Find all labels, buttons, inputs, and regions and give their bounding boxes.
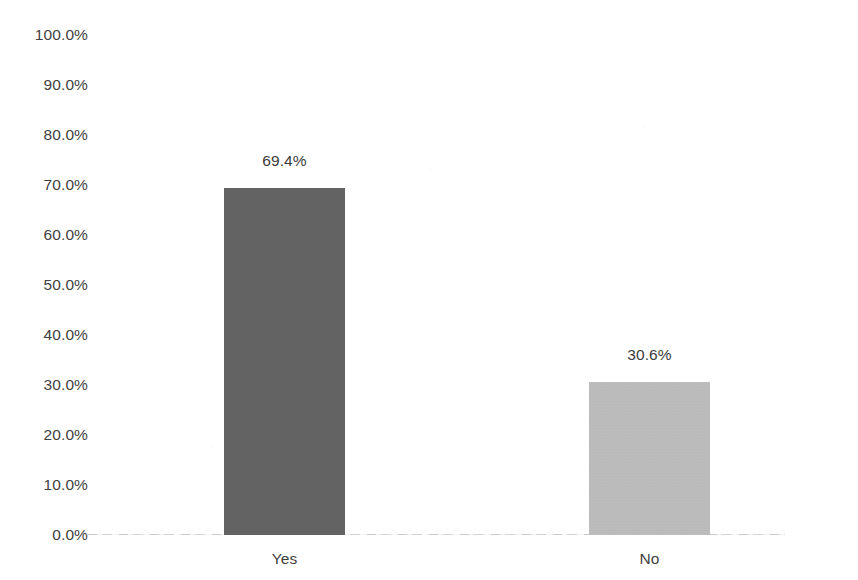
data-label-yes: 69.4% (224, 153, 345, 169)
bar-texture (589, 382, 710, 535)
y-axis-tick-label: 40.0% (0, 327, 88, 343)
plot-area: 69.4% 30.6% (88, 35, 785, 535)
y-axis-tick-label: 20.0% (0, 427, 88, 443)
bar-texture (224, 188, 345, 535)
y-axis-tick-label: 30.0% (0, 377, 88, 393)
y-axis-tick-label: 70.0% (0, 177, 88, 193)
x-axis-category-label-yes: Yes (224, 551, 345, 567)
x-axis-category-label-no: No (589, 551, 710, 567)
y-axis-tick-label: 10.0% (0, 477, 88, 493)
y-axis-tick-label: 80.0% (0, 127, 88, 143)
data-label-no: 30.6% (589, 347, 710, 363)
y-axis-tick-labels: 100.0% 90.0% 80.0% 70.0% 60.0% 50.0% 40.… (0, 0, 88, 580)
bar-yes[interactable] (224, 188, 345, 535)
y-axis-tick-label: 50.0% (0, 277, 88, 293)
y-axis-tick-label: 90.0% (0, 77, 88, 93)
y-axis-tick-label: 0.0% (0, 527, 88, 543)
y-axis-tick-label: 100.0% (0, 27, 88, 43)
bar-chart: 100.0% 90.0% 80.0% 70.0% 60.0% 50.0% 40.… (0, 0, 858, 580)
y-axis-tick-label: 60.0% (0, 227, 88, 243)
bar-no[interactable] (589, 382, 710, 535)
